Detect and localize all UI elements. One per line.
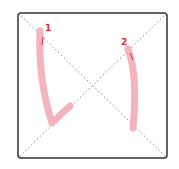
stroke-number-label: 1 — [45, 23, 51, 33]
stroke-2 — [128, 49, 135, 128]
stroke-number-label: 2 — [121, 37, 127, 47]
strokes-group: 12 — [40, 23, 135, 128]
stroke-1 — [40, 31, 70, 123]
stroke-order-diagram: 12 — [0, 0, 179, 169]
diagram-canvas: 12 — [0, 0, 179, 169]
